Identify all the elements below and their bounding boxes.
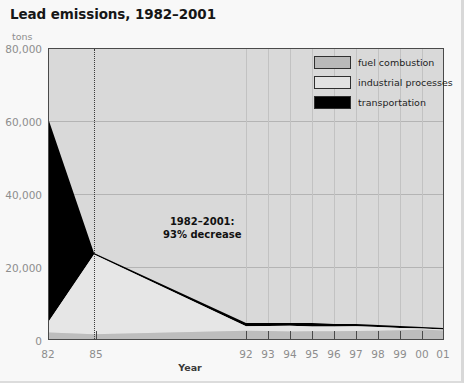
x-tick-96: [334, 331, 335, 340]
annotation-line-2: 93% decrease: [163, 228, 241, 241]
page-title: Lead emissions, 1982–2001: [10, 6, 216, 22]
x-tick-94: [290, 331, 291, 340]
legend-swatch-transportation: [314, 96, 351, 109]
y-tick-label-0: 0: [2, 335, 42, 347]
annotation-vline-1985: [94, 49, 95, 339]
y-axis-unit-label: tons: [12, 31, 33, 42]
chart-legend: fuel combustion industrial processes tra…: [314, 52, 436, 112]
x-tick-label-97: 97: [344, 348, 368, 360]
x-tick-93: [268, 331, 269, 340]
x-axis-title: Year: [0, 362, 464, 373]
x-tick-label-94: 94: [278, 348, 302, 360]
y-tick-label-60000: 60,000: [2, 116, 42, 128]
x-tick-label-92: 92: [234, 348, 258, 360]
y-tick-label-80000: 80,000: [2, 43, 42, 55]
x-axis-title-text: Year: [178, 362, 202, 373]
y-tick-label-40000: 40,000: [2, 189, 42, 201]
x-tick-85: [96, 331, 97, 340]
x-tick-98: [378, 331, 379, 340]
y-tick-label-20000: 20,000: [2, 262, 42, 274]
x-tick-label-85: 85: [84, 348, 108, 360]
legend-label-industrial-processes: industrial processes: [358, 77, 453, 88]
legend-item-industrial-processes: industrial processes: [314, 72, 436, 92]
x-tick-99: [400, 331, 401, 340]
x-tick-label-96: 96: [322, 348, 346, 360]
x-tick-label-95: 95: [300, 348, 324, 360]
x-tick-95: [312, 331, 313, 340]
chart-page: Lead emissions, 1982–2001 tons 0 20,000 …: [0, 0, 464, 383]
x-tick-label-01: 01: [431, 348, 455, 360]
legend-item-fuel-combustion: fuel combustion: [314, 52, 436, 72]
x-tick-label-82: 82: [36, 348, 60, 360]
legend-label-transportation: transportation: [358, 97, 426, 108]
area-industrial-processes: [49, 255, 443, 335]
legend-swatch-industrial-processes: [314, 76, 351, 89]
x-tick-92: [246, 331, 247, 340]
x-tick-label-93: 93: [256, 348, 280, 360]
legend-item-transportation: transportation: [314, 92, 436, 112]
x-tick-label-99: 99: [388, 348, 412, 360]
legend-swatch-fuel-combustion: [314, 56, 351, 69]
annotation-line-1: 1982–2001:: [163, 215, 241, 228]
x-tick-label-98: 98: [366, 348, 390, 360]
legend-label-fuel-combustion: fuel combustion: [358, 57, 434, 68]
x-tick-97: [356, 331, 357, 340]
x-tick-00: [422, 331, 423, 340]
decrease-annotation: 1982–2001: 93% decrease: [163, 215, 241, 241]
